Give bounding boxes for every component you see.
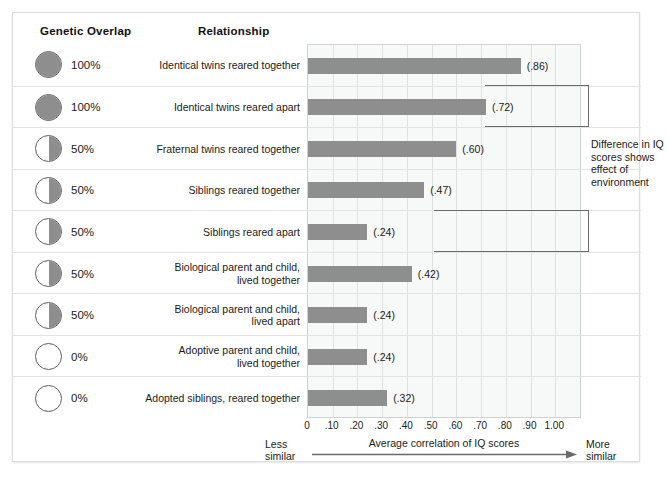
x-axis-tick-label: .90 — [523, 420, 537, 431]
genetic-overlap-pie-icon — [35, 218, 62, 245]
less-similar-label: Lesssimilar — [265, 438, 295, 462]
bracket-siblings — [434, 210, 589, 252]
genetic-overlap-percent: 100% — [71, 59, 100, 71]
genetic-overlap-percent: 100% — [71, 101, 100, 113]
genetic-overlap-percent: 50% — [71, 143, 94, 155]
genetic-overlap-cell: 50% — [35, 211, 145, 253]
genetic-overlap-cell: 100% — [35, 44, 145, 86]
table-row: 50%Biological parent and child,lived apa… — [13, 293, 641, 335]
genetic-overlap-pie-icon — [35, 177, 62, 204]
x-axis-tick-label: .30 — [374, 420, 388, 431]
genetic-overlap-percent: 50% — [71, 309, 94, 321]
genetic-overlap-percent: 0% — [71, 351, 88, 363]
relationship-cell: Siblings reared apart — [133, 211, 300, 253]
relationship-label: Fraternal twins reared together — [156, 143, 300, 156]
genetic-overlap-cell: 0% — [35, 377, 145, 419]
genetic-overlap-cell: 50% — [35, 170, 145, 212]
table-row: 100%Identical twins reared together — [13, 44, 641, 86]
genetic-overlap-pie-icon — [35, 302, 62, 329]
x-axis-tick-label: .20 — [350, 420, 364, 431]
genetic-overlap-percent: 50% — [71, 184, 94, 196]
relationship-label: Identical twins reared apart — [174, 101, 300, 114]
similarity-arrow-icon — [312, 450, 577, 459]
relationship-cell: Adopted siblings, reared together — [133, 377, 300, 419]
genetic-overlap-cell: 0% — [35, 336, 145, 378]
bracket-identical-twins — [485, 85, 589, 127]
relationship-cell: Identical twins reared together — [133, 44, 300, 86]
table-row: 50%Biological parent and child,lived tog… — [13, 252, 641, 294]
more-similar-label: Moresimilar — [586, 438, 616, 462]
relationship-label: Biological parent and child,lived togeth… — [175, 261, 301, 286]
relationship-cell: Biological parent and child,lived apart — [133, 294, 300, 336]
table-row: 50%Siblings reared together — [13, 169, 641, 211]
x-axis-tick-label: .50 — [424, 420, 438, 431]
x-axis-tick-label: .80 — [498, 420, 512, 431]
relationship-cell: Fraternal twins reared together — [133, 128, 300, 170]
genetic-overlap-percent: 0% — [71, 392, 88, 404]
genetic-overlap-cell: 50% — [35, 253, 145, 295]
genetic-overlap-percent: 50% — [71, 268, 94, 280]
relationship-cell: Biological parent and child,lived togeth… — [133, 253, 300, 295]
genetic-overlap-pie-icon — [35, 260, 62, 287]
relationship-label: Siblings reared apart — [203, 226, 300, 239]
genetic-overlap-cell: 50% — [35, 294, 145, 336]
annotation-environment-effect: Difference in IQ scores shows effect of … — [591, 138, 668, 188]
x-axis-tick-label: .60 — [448, 420, 462, 431]
genetic-overlap-cell: 100% — [35, 87, 145, 129]
genetic-overlap-pie-icon — [35, 135, 62, 162]
x-axis-tick-label: 0 — [304, 420, 310, 431]
relationship-cell: Siblings reared together — [133, 170, 300, 212]
x-axis-tick-label: .10 — [325, 420, 339, 431]
table-row: 50%Fraternal twins reared together — [13, 127, 641, 169]
figure-frame: Genetic Overlap Relationship (.86)(.72)(… — [12, 12, 640, 462]
relationship-cell: Adoptive parent and child,lived together — [133, 336, 300, 378]
x-axis-tick-label: 1.00 — [545, 420, 564, 431]
relationship-label: Adopted siblings, reared together — [145, 392, 300, 405]
x-axis-tick-label: .70 — [473, 420, 487, 431]
genetic-overlap-pie-icon — [35, 343, 62, 370]
relationship-cell: Identical twins reared apart — [133, 87, 300, 129]
genetic-overlap-pie-icon — [35, 385, 62, 412]
genetic-overlap-pie-icon — [35, 94, 62, 121]
x-axis-title: Average correlation of IQ scores — [307, 437, 581, 449]
genetic-overlap-pie-icon — [35, 51, 62, 78]
relationship-label: Siblings reared together — [189, 184, 301, 197]
relationship-label: Biological parent and child,lived apart — [175, 303, 301, 328]
column-header-genetic-overlap: Genetic Overlap — [40, 25, 131, 37]
relationship-label: Identical twins reared together — [159, 59, 300, 72]
table-row: 0%Adoptive parent and child,lived togeth… — [13, 335, 641, 377]
x-axis-tick-label: .40 — [399, 420, 413, 431]
x-axis-ticks: 0.10.20.30.40.50.60.70.80.901.00 — [307, 420, 581, 434]
table-row: 0%Adopted siblings, reared together — [13, 376, 641, 418]
column-header-relationship: Relationship — [198, 25, 269, 37]
genetic-overlap-percent: 50% — [71, 226, 94, 238]
relationship-label: Adoptive parent and child,lived together — [179, 344, 300, 369]
genetic-overlap-cell: 50% — [35, 128, 145, 170]
